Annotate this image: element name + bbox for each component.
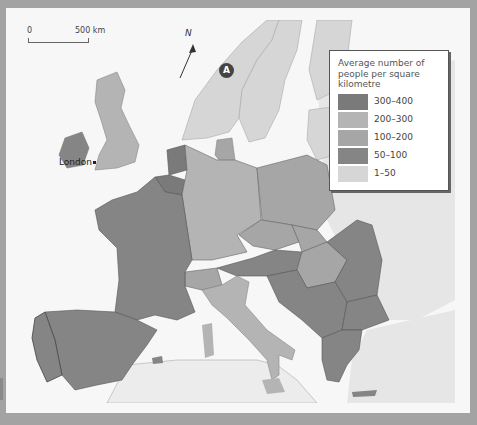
legend-row: 50–100 (338, 148, 443, 164)
legend-label: 50–100 (374, 150, 407, 160)
legend-row: 300–400 (338, 94, 443, 110)
legend-title: Average number of people per square kilo… (338, 58, 448, 90)
city-label-london: London (59, 157, 96, 167)
north-arrow-label: N (185, 28, 192, 38)
legend-row: 1–50 (338, 166, 443, 182)
legend-swatch (338, 148, 368, 164)
legend-label: 200–300 (374, 114, 413, 124)
legend-swatch (338, 112, 368, 128)
location-marker-a: A (219, 63, 234, 78)
country-netherlands (167, 145, 187, 175)
map-legend: Average number of people per square kilo… (329, 50, 449, 191)
legend-swatch (338, 130, 368, 146)
scale-start-label: 0 (27, 26, 32, 35)
city-name: London (59, 157, 92, 167)
legend-label: 300–400 (374, 96, 413, 106)
country-poland (257, 155, 335, 230)
page-edge-bar (0, 378, 3, 400)
legend-label: 1–50 (374, 168, 396, 178)
legend-row: 200–300 (338, 112, 443, 128)
legend-swatch (338, 166, 368, 182)
scale-end-label: 500 km (75, 26, 105, 35)
population-density-map: 0 500 km N A London Average number of pe… (17, 20, 455, 403)
scale-line (28, 38, 89, 43)
legend-row: 100–200 (338, 130, 443, 146)
city-dot-icon (93, 161, 96, 164)
legend-swatch (338, 94, 368, 110)
legend-label: 100–200 (374, 132, 413, 142)
